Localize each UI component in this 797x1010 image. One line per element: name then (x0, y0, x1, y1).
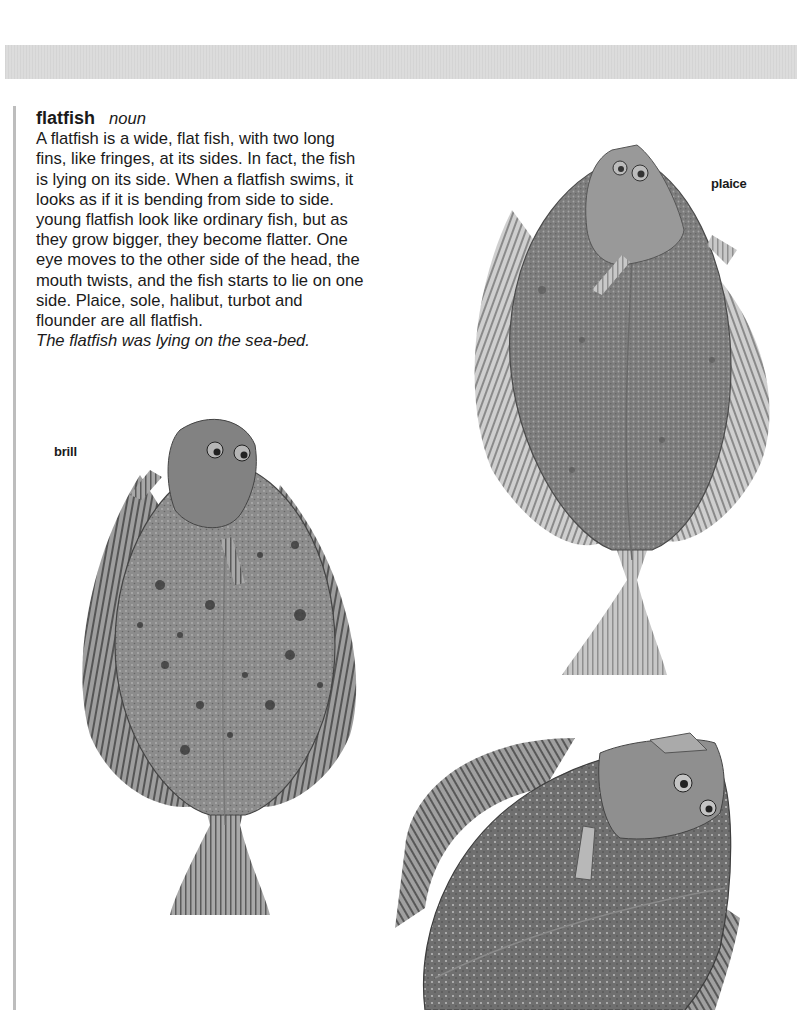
definition-line: looks as if it is bending from side to s… (36, 190, 396, 210)
definition-line: side. Plaice, sole, halibut, turbot and (36, 291, 396, 311)
definition-line: eye moves to the other side of the head,… (36, 250, 396, 270)
definition-line: fins, like fringes, at its sides. In fac… (36, 149, 396, 169)
margin-rule (13, 106, 16, 1010)
headword: flatfish (36, 108, 95, 128)
entry-heading: flatfishnoun (36, 108, 396, 129)
example-sentence: The flatfish was lying on the sea-bed. (36, 331, 396, 351)
definition-line: they grow bigger, they become flatter. O… (36, 230, 396, 250)
definition: A flatfish is a wide, flat fish, with tw… (36, 129, 396, 331)
plaice-illustration (462, 140, 797, 685)
brill-illustration (70, 405, 380, 930)
part-of-speech: noun (109, 109, 146, 128)
turbot-illustration (395, 728, 797, 1010)
definition-line: is lying on its side. When a flatfish sw… (36, 170, 396, 190)
header-band (5, 45, 797, 79)
definition-line: mouth twists, and the fish starts to lie… (36, 271, 396, 291)
definition-line: young flatfish look like ordinary fish, … (36, 210, 396, 230)
dictionary-entry: flatfishnoun A flatfish is a wide, flat … (36, 108, 396, 351)
definition-line: flounder are all flatfish. (36, 311, 396, 331)
definition-line: A flatfish is a wide, flat fish, with tw… (36, 129, 396, 149)
